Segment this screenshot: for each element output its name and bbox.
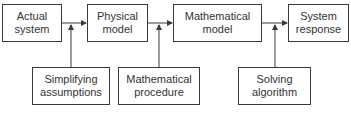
box-label: response (296, 23, 341, 36)
mathematical-procedure-box: Mathematicalprocedure (118, 67, 200, 105)
box-label: Mathematical (126, 73, 191, 86)
box-label: Actual (15, 10, 50, 23)
box-label: Mathematical (185, 10, 250, 23)
box-label: model (185, 23, 250, 36)
mathematical-model-box: Mathematicalmodel (173, 4, 262, 42)
box-label: system (15, 23, 50, 36)
physical-model-box: Physicalmodel (87, 4, 148, 42)
box-label: System (296, 10, 341, 23)
box-label: assumptions (40, 86, 102, 99)
simplifying-assumptions-box: Simplifyingassumptions (32, 67, 110, 105)
solving-algorithm-box: Solvingalgorithm (238, 67, 311, 105)
box-label: procedure (126, 86, 191, 99)
system-response-box: Systemresponse (288, 4, 349, 42)
box-label: model (97, 23, 138, 36)
box-label: Solving (252, 73, 297, 86)
box-label: algorithm (252, 86, 297, 99)
box-label: Simplifying (40, 73, 102, 86)
actual-system-box: Actualsystem (2, 4, 62, 42)
box-label: Physical (97, 10, 138, 23)
